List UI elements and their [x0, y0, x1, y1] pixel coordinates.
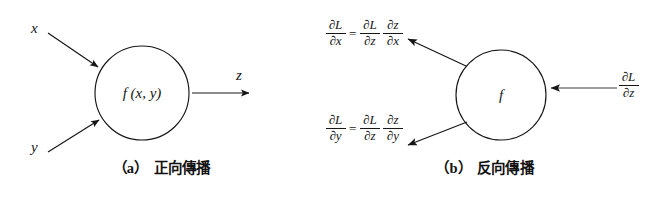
gradient-expression-dy: ∂L ∂y = ∂L ∂z ∂z ∂y: [325, 113, 403, 143]
caption-a-tag: （a）: [113, 160, 149, 176]
input-label-x: x: [31, 21, 38, 36]
caption-panel-a: （a）正向傳播: [0, 160, 323, 177]
input-arrow-y: [48, 120, 99, 152]
equals-operator: =: [346, 27, 359, 40]
function-node-label: f: [499, 88, 503, 103]
function-node-label: f (x, y): [123, 86, 162, 101]
caption-b-tag: （b）: [435, 160, 472, 176]
caption-panel-b: （b）反向傳播: [323, 160, 646, 177]
panel-forward-propagation: x y z f (x, y) （a）正向傳播: [0, 0, 323, 199]
fraction-dz-dx: ∂z ∂x: [383, 18, 403, 48]
gradient-arrow-dy: [408, 122, 467, 145]
fraction-dL-dz: ∂L ∂z: [360, 113, 380, 143]
gradient-expression-dx: ∂L ∂x = ∂L ∂z ∂z ∂x: [325, 18, 403, 48]
input-label-y: y: [31, 140, 38, 155]
output-label-z: z: [236, 68, 242, 83]
gradient-expression-dz: ∂L ∂z: [618, 70, 639, 100]
fraction-dL-dx: ∂L ∂x: [326, 18, 346, 48]
caption-b-text: 反向傳播: [477, 160, 534, 176]
fraction-dL-dy: ∂L ∂y: [326, 113, 346, 143]
fraction-dL-dz-incoming: ∂L ∂z: [619, 70, 639, 100]
caption-a-text: 正向傳播: [154, 160, 211, 176]
backpropagation-figure: x y z f (x, y) （a）正向傳播 f: [0, 0, 646, 199]
input-arrow-x: [48, 33, 98, 67]
gradient-arrow-dx: [408, 39, 466, 66]
panel-back-propagation: f ∂L ∂x = ∂L ∂z ∂z ∂x ∂L: [323, 0, 646, 199]
fraction-dz-dy: ∂z ∂y: [383, 113, 403, 143]
equals-operator: =: [346, 122, 359, 135]
fraction-dL-dz: ∂L ∂z: [360, 18, 380, 48]
